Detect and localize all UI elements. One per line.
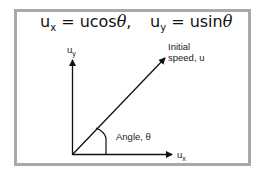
angle-label: Angle, θ (116, 131, 151, 142)
velocity-label-line1: Initial (168, 41, 204, 52)
x-axis-label: ux (177, 149, 186, 164)
y-axis-subscript: y (72, 50, 76, 57)
velocity-label: Initial speed, u (168, 41, 204, 63)
x-axis-subscript: x (182, 155, 186, 162)
angle-arc (96, 128, 106, 155)
y-axis-label: uy (67, 44, 76, 59)
velocity-label-line2: speed, u (168, 52, 204, 63)
vector-diagram (0, 0, 260, 176)
